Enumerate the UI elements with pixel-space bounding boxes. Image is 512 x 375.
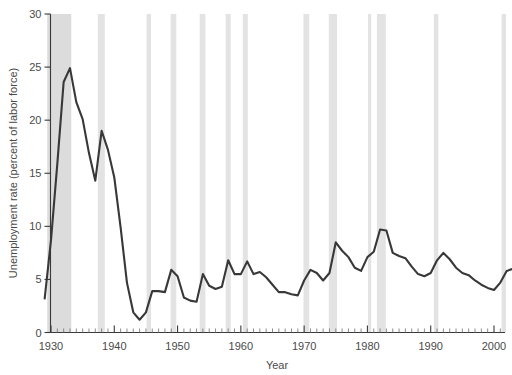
y-tick-label: 5 xyxy=(35,273,41,285)
x-axis-tick-labels: 19301940195019601970198019902000 xyxy=(39,340,506,352)
recession-band xyxy=(368,14,371,333)
x-tick-label: 1960 xyxy=(229,340,253,352)
recession-band xyxy=(329,14,337,333)
recession-band xyxy=(226,14,231,333)
x-tick-label: 1970 xyxy=(292,340,316,352)
recession-band xyxy=(243,14,248,333)
x-tick-label: 1930 xyxy=(39,340,63,352)
y-tick-label: 20 xyxy=(29,114,41,126)
recession-band xyxy=(147,14,151,333)
unemployment-rate-series-line xyxy=(45,68,512,320)
recession-band xyxy=(434,14,438,333)
x-tick-label: 1940 xyxy=(102,340,126,352)
recession-band xyxy=(98,14,105,333)
recession-shaded-bands xyxy=(47,14,506,333)
x-tick-label: 2000 xyxy=(482,340,506,352)
recession-band xyxy=(377,14,386,333)
y-axis-tick-labels: 051015202530 xyxy=(29,8,41,339)
chart-figure: 051015202530 193019401950196019701980199… xyxy=(0,0,512,375)
y-tick-label: 15 xyxy=(29,167,41,179)
x-tick-label: 1990 xyxy=(418,340,442,352)
x-tick-label: 1980 xyxy=(355,340,379,352)
x-axis-title: Year xyxy=(266,359,289,371)
recession-band xyxy=(304,14,310,333)
x-tick-label: 1950 xyxy=(165,340,189,352)
y-tick-label: 30 xyxy=(29,8,41,20)
y-tick-label: 10 xyxy=(29,220,41,232)
recession-band xyxy=(171,14,177,333)
unemployment-rate-line-chart: 051015202530 193019401950196019701980199… xyxy=(0,0,512,375)
recession-band xyxy=(502,14,506,333)
y-tick-label: 0 xyxy=(35,327,41,339)
y-axis-title: Unemployment rate (percent of labor forc… xyxy=(7,68,19,278)
y-tick-label: 25 xyxy=(29,61,41,73)
